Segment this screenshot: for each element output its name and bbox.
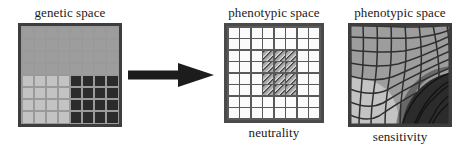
neutrality-cell-r4-c1 bbox=[229, 62, 239, 72]
neutrality-cell-r1-c8 bbox=[309, 28, 319, 38]
genetic-cell-r7-c4 bbox=[59, 100, 70, 111]
genetic-cell-r5-c2 bbox=[35, 76, 46, 87]
neutrality-cell-r5-c7 bbox=[298, 74, 308, 84]
genetic-cell-r1-c1 bbox=[23, 28, 34, 39]
neutrality-cell-r1-c7 bbox=[298, 28, 308, 38]
genetic-cell-r4-c1 bbox=[23, 64, 34, 75]
genetic-cell-r2-c7 bbox=[95, 40, 106, 51]
neutrality-cell-r4-c3 bbox=[252, 62, 262, 72]
genetic-cell-r7-c7 bbox=[95, 100, 106, 111]
genetic-cell-r8-c6 bbox=[83, 112, 94, 123]
genetic-cell-r8-c8 bbox=[107, 112, 118, 123]
genetic-cell-r5-c1 bbox=[23, 76, 34, 87]
genetic-cell-r1-c8 bbox=[107, 28, 118, 39]
genetic-cell-r4-c7 bbox=[95, 64, 106, 75]
genetic-cell-r2-c2 bbox=[35, 40, 46, 51]
genetic-cell-r4-c4 bbox=[59, 64, 70, 75]
neutrality-cell-r8-c8 bbox=[309, 108, 319, 118]
genetic-cell-r8-c7 bbox=[95, 112, 106, 123]
genetic-cell-r1-c7 bbox=[95, 28, 106, 39]
neutrality-cell-r7-c3 bbox=[252, 97, 262, 107]
neutrality-cell-r4-c5 bbox=[275, 62, 285, 72]
neutrality-cell-r7-c4 bbox=[263, 97, 273, 107]
genetic-cell-r8-c3 bbox=[47, 112, 58, 123]
neutrality-cell-r6-c6 bbox=[286, 85, 296, 95]
neutrality-cell-r2-c3 bbox=[252, 39, 262, 49]
panel-phenotypic-sensitivity: phenotypic space bbox=[338, 5, 462, 145]
neutrality-cell-r8-c6 bbox=[286, 108, 296, 118]
neutrality-cell-r8-c2 bbox=[240, 108, 250, 118]
neutrality-cell-r2-c7 bbox=[298, 39, 308, 49]
neutrality-grid bbox=[224, 23, 324, 123]
neutrality-cell-r1-c4 bbox=[263, 28, 273, 38]
neutrality-cell-r8-c7 bbox=[298, 108, 308, 118]
neutrality-cell-r5-c4 bbox=[263, 74, 273, 84]
genetic-cell-r1-c6 bbox=[83, 28, 94, 39]
neutrality-cell-r2-c1 bbox=[229, 39, 239, 49]
genetic-cell-r4-c5 bbox=[71, 64, 82, 75]
genetic-cell-r2-c6 bbox=[83, 40, 94, 51]
genetic-cell-r7-c8 bbox=[107, 100, 118, 111]
neutrality-cell-r8-c1 bbox=[229, 108, 239, 118]
neutrality-cell-r3-c7 bbox=[298, 51, 308, 61]
genetic-cell-r3-c5 bbox=[71, 52, 82, 63]
genetic-cell-r6-c6 bbox=[83, 88, 94, 99]
genetic-cell-r4-c2 bbox=[35, 64, 46, 75]
genetic-cell-r4-c3 bbox=[47, 64, 58, 75]
genetic-cell-r2-c3 bbox=[47, 40, 58, 51]
neutrality-cell-r6-c7 bbox=[298, 85, 308, 95]
neutrality-cell-r3-c2 bbox=[240, 51, 250, 61]
genetic-cell-r8-c5 bbox=[71, 112, 82, 123]
genetic-cell-r3-c8 bbox=[107, 52, 118, 63]
neutrality-cell-r2-c8 bbox=[309, 39, 319, 49]
genetic-cell-r5-c8 bbox=[107, 76, 118, 87]
genetic-cell-r5-c7 bbox=[95, 76, 106, 87]
neutrality-cell-r3-c4 bbox=[263, 51, 273, 61]
neutrality-cell-r2-c4 bbox=[263, 39, 273, 49]
panel-phenotypic-neutrality: phenotypic space neutrality bbox=[212, 5, 336, 141]
genetic-cell-r3-c4 bbox=[59, 52, 70, 63]
neutrality-cell-r1-c2 bbox=[240, 28, 250, 38]
figure-genotype-phenotype-mapping: genetic space phenotypic space neutralit… bbox=[0, 0, 462, 150]
genetic-cell-r4-c8 bbox=[107, 64, 118, 75]
genetic-cell-r3-c7 bbox=[95, 52, 106, 63]
genetic-cell-r2-c4 bbox=[59, 40, 70, 51]
genetic-cell-r6-c1 bbox=[23, 88, 34, 99]
neutrality-cell-r5-c5 bbox=[275, 74, 285, 84]
neutrality-cell-r6-c5 bbox=[275, 85, 285, 95]
neutrality-cell-r8-c4 bbox=[263, 108, 273, 118]
neutrality-cell-r5-c8 bbox=[309, 74, 319, 84]
genetic-cell-r7-c2 bbox=[35, 100, 46, 111]
neutrality-cell-r5-c3 bbox=[252, 74, 262, 84]
genetic-cell-r6-c3 bbox=[47, 88, 58, 99]
neutrality-caption: neutrality bbox=[212, 125, 336, 141]
genetic-cell-r8-c1 bbox=[23, 112, 34, 123]
neutrality-cell-r2-c6 bbox=[286, 39, 296, 49]
genetic-cell-r7-c3 bbox=[47, 100, 58, 111]
genetic-cell-r6-c2 bbox=[35, 88, 46, 99]
neutrality-cell-r2-c2 bbox=[240, 39, 250, 49]
sensitivity-warped-grid bbox=[348, 23, 452, 127]
neutrality-cell-r4-c6 bbox=[286, 62, 296, 72]
genetic-cell-r7-c1 bbox=[23, 100, 34, 111]
neutrality-cell-r5-c6 bbox=[286, 74, 296, 84]
neutrality-cell-r7-c8 bbox=[309, 97, 319, 107]
phenotypic-space-label-right: phenotypic space bbox=[338, 5, 462, 21]
neutrality-cell-r4-c8 bbox=[309, 62, 319, 72]
neutrality-cell-r7-c5 bbox=[275, 97, 285, 107]
neutrality-cell-r1-c5 bbox=[275, 28, 285, 38]
genetic-cell-r4-c6 bbox=[83, 64, 94, 75]
genetic-cell-r7-c6 bbox=[83, 100, 94, 111]
genetic-cell-r6-c8 bbox=[107, 88, 118, 99]
genetic-cell-r1-c2 bbox=[35, 28, 46, 39]
neutrality-cell-r6-c2 bbox=[240, 85, 250, 95]
genetic-cell-r3-c1 bbox=[23, 52, 34, 63]
neutrality-cell-r7-c6 bbox=[286, 97, 296, 107]
genetic-cell-r1-c5 bbox=[71, 28, 82, 39]
neutrality-cell-r3-c1 bbox=[229, 51, 239, 61]
genetic-space-grid bbox=[18, 23, 122, 127]
genetic-cell-r8-c4 bbox=[59, 112, 70, 123]
genetic-cell-r5-c3 bbox=[47, 76, 58, 87]
neutrality-cell-r3-c5 bbox=[275, 51, 285, 61]
genetic-cell-r8-c2 bbox=[35, 112, 46, 123]
